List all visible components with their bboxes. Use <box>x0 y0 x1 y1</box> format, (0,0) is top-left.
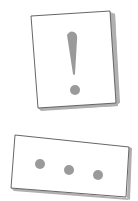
illustration <box>0 0 138 201</box>
alert-card <box>31 11 120 111</box>
ellipsis-dot <box>64 165 74 175</box>
ellipsis-dot <box>93 170 103 180</box>
ellipsis-card <box>11 135 132 200</box>
ellipsis-dot <box>35 159 45 169</box>
